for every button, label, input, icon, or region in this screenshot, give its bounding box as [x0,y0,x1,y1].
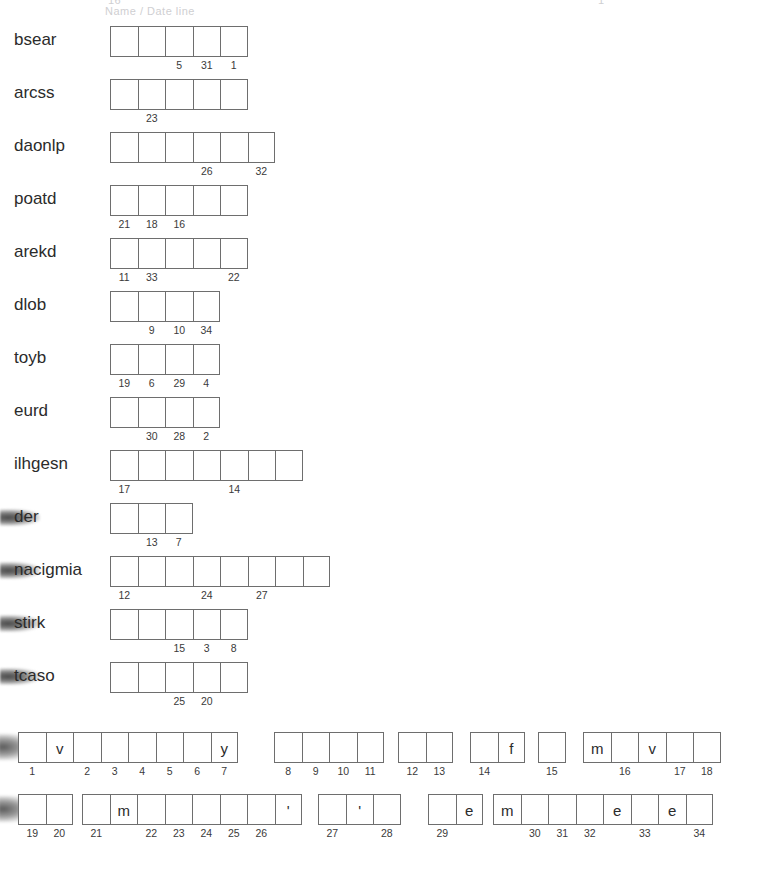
answer-cell[interactable] [193,79,221,110]
answer-cell[interactable] [220,79,248,110]
answer-cell[interactable]: 18 [138,185,166,216]
answer-cell[interactable] [110,132,138,163]
cryptogram-cell[interactable]: 31 [548,794,576,825]
answer-cell[interactable]: 14 [220,450,248,481]
answer-cell[interactable] [193,185,221,216]
cryptogram-cell[interactable]: v [46,732,74,763]
answer-cell[interactable]: 3 [193,609,221,640]
answer-cell[interactable]: 6 [138,344,166,375]
cryptogram-cell[interactable]: 3 [101,732,129,763]
cryptogram-cell[interactable]: 9 [302,732,330,763]
cryptogram-cell[interactable]: 1 [18,732,46,763]
cryptogram-cell[interactable]: 14 [470,732,498,763]
answer-cell[interactable]: 21 [110,185,138,216]
cryptogram-cell[interactable]: 19 [18,794,46,825]
answer-cell[interactable] [165,79,193,110]
answer-cell[interactable]: 28 [165,397,193,428]
answer-cell[interactable] [165,556,193,587]
answer-cell[interactable]: 2 [193,397,221,428]
cryptogram-cell[interactable]: 16 [611,732,639,763]
cryptogram-cell[interactable]: 25 [220,794,248,825]
answer-cell[interactable] [138,556,166,587]
cryptogram-cell[interactable]: 8 [274,732,302,763]
cryptogram-cell[interactable]: 20 [46,794,74,825]
cryptogram-cell[interactable]: 30 [521,794,549,825]
cryptogram-cell[interactable]: 33 [631,794,659,825]
cryptogram-cell[interactable]: e [603,794,631,825]
answer-cell[interactable]: 34 [193,291,221,322]
cryptogram-cell[interactable]: 23 [165,794,193,825]
cryptogram-cell[interactable]: 10 [329,732,357,763]
answer-cell[interactable]: 23 [138,79,166,110]
answer-cell[interactable]: 26 [193,132,221,163]
cryptogram-cell[interactable]: 4 [128,732,156,763]
cryptogram-cell[interactable]: v [638,732,666,763]
answer-cell[interactable] [138,450,166,481]
answer-cell[interactable] [138,26,166,57]
answer-cell[interactable] [275,450,303,481]
answer-cell[interactable]: 19 [110,344,138,375]
cryptogram-cell[interactable]: 12 [398,732,426,763]
answer-cell[interactable] [138,609,166,640]
cryptogram-cell[interactable]: 27 [318,794,346,825]
answer-cell[interactable] [165,238,193,269]
cryptogram-cell[interactable]: 29 [428,794,456,825]
cryptogram-cell[interactable]: 21 [82,794,110,825]
cryptogram-cell[interactable]: e [456,794,484,825]
answer-cell[interactable]: 33 [138,238,166,269]
answer-cell[interactable] [303,556,331,587]
answer-cell[interactable]: 13 [138,503,166,534]
answer-cell[interactable]: 16 [165,185,193,216]
answer-cell[interactable]: 30 [138,397,166,428]
cryptogram-cell[interactable]: ' [275,794,303,825]
answer-cell[interactable]: 8 [220,609,248,640]
answer-cell[interactable]: 7 [165,503,193,534]
cryptogram-cell[interactable]: 5 [156,732,184,763]
answer-cell[interactable] [110,291,138,322]
answer-cell[interactable] [110,662,138,693]
cryptogram-cell[interactable]: m [493,794,521,825]
answer-cell[interactable] [110,397,138,428]
answer-cell[interactable] [110,609,138,640]
answer-cell[interactable]: 20 [193,662,221,693]
cryptogram-cell[interactable]: e [658,794,686,825]
cryptogram-cell[interactable]: 15 [538,732,566,763]
cryptogram-cell[interactable]: 17 [666,732,694,763]
cryptogram-cell[interactable]: 2 [73,732,101,763]
answer-cell[interactable] [275,556,303,587]
answer-cell[interactable] [193,238,221,269]
cryptogram-cell[interactable]: f [498,732,526,763]
cryptogram-cell[interactable]: 28 [373,794,401,825]
cryptogram-cell[interactable]: 34 [686,794,714,825]
answer-cell[interactable]: 24 [193,556,221,587]
cryptogram-cell[interactable]: y7 [211,732,239,763]
answer-cell[interactable] [220,662,248,693]
answer-cell[interactable]: 4 [193,344,221,375]
answer-cell[interactable] [248,450,276,481]
cryptogram-cell[interactable]: 24 [192,794,220,825]
answer-cell[interactable]: 17 [110,450,138,481]
cryptogram-cell[interactable]: m [110,794,138,825]
answer-cell[interactable] [220,556,248,587]
answer-cell[interactable] [138,132,166,163]
answer-cell[interactable]: 1 [220,26,248,57]
answer-cell[interactable] [138,662,166,693]
answer-cell[interactable]: 11 [110,238,138,269]
cryptogram-cell[interactable]: 6 [183,732,211,763]
answer-cell[interactable] [165,450,193,481]
cryptogram-cell[interactable]: 26 [247,794,275,825]
answer-cell[interactable]: 29 [165,344,193,375]
answer-cell[interactable] [193,450,221,481]
answer-cell[interactable] [220,185,248,216]
answer-cell[interactable]: 25 [165,662,193,693]
answer-cell[interactable]: 22 [220,238,248,269]
answer-cell[interactable]: 32 [248,132,276,163]
cryptogram-cell[interactable]: 32 [576,794,604,825]
cryptogram-cell[interactable]: 11 [357,732,385,763]
answer-cell[interactable]: 10 [165,291,193,322]
answer-cell[interactable] [110,503,138,534]
answer-cell[interactable] [220,132,248,163]
answer-cell[interactable]: 27 [248,556,276,587]
cryptogram-cell[interactable]: 18 [693,732,721,763]
answer-cell[interactable]: 9 [138,291,166,322]
